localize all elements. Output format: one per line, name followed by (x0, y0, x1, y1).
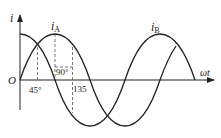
waveform-diagram: i ωt O iA iB 45° 90° 135 (0, 0, 221, 138)
x-axis-label: ωt (200, 67, 210, 78)
marker-45-label: 45° (29, 85, 42, 95)
marker-90-label: 90° (56, 67, 69, 77)
curve-i-b-label: iB (151, 20, 160, 35)
marker-135-label: 135 (73, 84, 87, 94)
curve-i-a-label: iA (51, 19, 60, 34)
y-axis-label: i (10, 11, 13, 25)
origin-label: O (8, 74, 16, 86)
